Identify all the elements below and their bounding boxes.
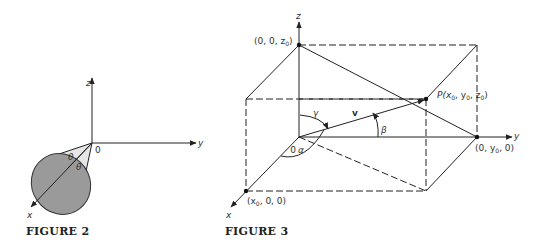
- fig2-theta-1: θ: [68, 152, 74, 162]
- figure-3: z y x v γ α β 0 (0, 0, z0) P(x0, y0, z0)…: [225, 11, 520, 238]
- point-x0: [244, 189, 248, 193]
- fig2-origin-label: 0: [95, 145, 101, 155]
- vector-v: [299, 100, 424, 137]
- point-z0: [297, 43, 301, 47]
- p-label: P(x0, y0, z0): [437, 90, 488, 101]
- beta-label: β: [380, 125, 387, 135]
- point-y0: [475, 135, 479, 139]
- point-p: [424, 97, 428, 101]
- fig2-x-label: x: [26, 210, 33, 220]
- figure-2: z y x 0 θ θ FIGURE 2: [19, 78, 204, 238]
- fig2-z-label: z: [85, 78, 91, 88]
- fig2-theta-2: θ: [76, 162, 82, 172]
- fig3-caption: FIGURE 3: [225, 225, 288, 238]
- gamma-label: γ: [313, 108, 319, 118]
- y0-label: (0, y0, 0): [475, 143, 514, 154]
- z0-label: (0, 0, z0): [254, 36, 292, 47]
- x0-label: (x0, 0, 0): [247, 196, 286, 207]
- figures-canvas: z y x 0 θ θ FIGURE 2: [0, 0, 541, 250]
- fig3-y-label: y: [513, 131, 520, 141]
- fig3-x-label: x: [225, 210, 232, 220]
- beta-arc: [373, 113, 378, 137]
- fig2-caption: FIGURE 2: [26, 225, 89, 238]
- vector-v-label: v: [352, 108, 358, 118]
- fig3-origin-label: 0: [290, 145, 296, 155]
- fig2-y-label: y: [197, 138, 204, 148]
- fig3-z-label: z: [295, 11, 301, 21]
- alpha-label: α: [298, 145, 304, 155]
